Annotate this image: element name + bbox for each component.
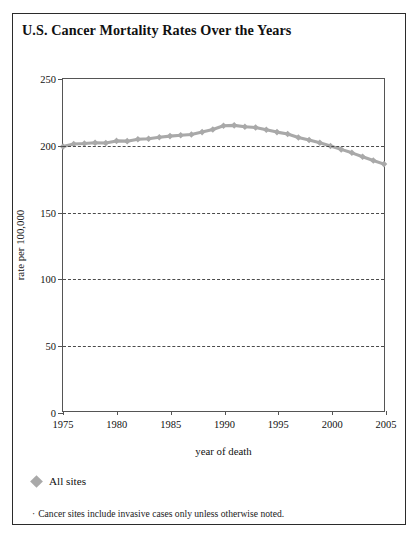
footnote-text: Cancer sites include invasive cases only… <box>38 508 284 519</box>
chart-area: 0501001502002501975198019851990199520002… <box>12 13 406 525</box>
figure-page: U.S. Cancer Mortality Rates Over the Yea… <box>0 0 419 535</box>
y-tick-label: 250 <box>40 74 56 85</box>
legend-item-label: All sites <box>49 475 86 487</box>
x-tick-label: 1980 <box>106 419 127 430</box>
y-tick-label: 100 <box>40 274 56 285</box>
x-tick-mark <box>332 411 333 415</box>
plot-box: 0501001502002501975198019851990199520002… <box>62 78 385 412</box>
x-tick-label: 2000 <box>322 419 343 430</box>
y-tick-mark <box>58 279 63 280</box>
figure-footnote: ·Cancer sites include invasive cases onl… <box>32 508 392 520</box>
x-tick-mark <box>278 411 279 415</box>
y-tick-label: 50 <box>46 341 57 352</box>
y-tick-mark <box>58 146 63 147</box>
y-gridline <box>63 346 384 347</box>
y-tick-label: 0 <box>51 408 56 419</box>
x-tick-label: 1995 <box>268 419 289 430</box>
y-tick-mark <box>58 346 63 347</box>
y-tick-label: 150 <box>40 207 56 218</box>
diamond-marker-icon <box>30 475 43 488</box>
x-tick-label: 2005 <box>376 419 397 430</box>
y-gridline <box>63 213 384 214</box>
x-tick-mark <box>63 411 64 415</box>
x-tick-mark <box>386 411 387 415</box>
x-tick-label: 1985 <box>160 419 181 430</box>
x-tick-label: 1975 <box>53 419 74 430</box>
chart-legend: All sites <box>32 475 86 487</box>
x-tick-mark <box>225 411 226 415</box>
y-gridline <box>63 279 384 280</box>
x-tick-mark <box>171 411 172 415</box>
x-tick-mark <box>117 411 118 415</box>
x-axis-title: year of death <box>62 445 385 457</box>
y-tick-mark <box>58 213 63 214</box>
y-axis-title: rate per 100,000 <box>14 210 26 280</box>
footnote-bullet-icon: · <box>32 508 35 519</box>
x-tick-label: 1990 <box>214 419 235 430</box>
y-tick-mark <box>58 79 63 80</box>
y-tick-label: 200 <box>40 140 56 151</box>
series-all-sites <box>63 79 384 411</box>
y-gridline <box>63 146 384 147</box>
